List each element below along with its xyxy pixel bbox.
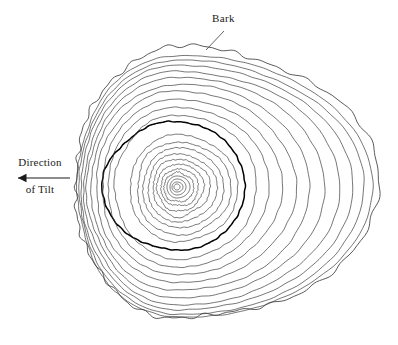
growth-ring (156, 164, 205, 211)
growth-ring (153, 159, 210, 218)
growth-ring (138, 142, 232, 236)
bark-outline (74, 44, 380, 319)
bark-outline-group (74, 44, 380, 319)
growth-ring (170, 179, 186, 195)
growth-ring (130, 134, 238, 242)
tilt-direction-label: Direction of Tilt (4, 157, 76, 195)
growth-ring (81, 65, 353, 310)
tilt-label-line-1: Direction (4, 157, 76, 169)
figure-canvas: Bark Direction of Tilt (0, 0, 398, 345)
growth-ring (96, 91, 296, 283)
growth-ring (174, 184, 180, 190)
bark-leader-line-segment (206, 31, 224, 50)
growth-ring (86, 77, 325, 298)
growth-ring (77, 55, 374, 317)
bark-leader-line (206, 31, 224, 50)
growth-ring-highlighted (102, 121, 246, 250)
bark-label: Bark (212, 12, 235, 24)
annual-rings-group (77, 55, 374, 317)
growth-ring (161, 169, 199, 206)
tilt-label-line-2: of Tilt (4, 184, 76, 196)
